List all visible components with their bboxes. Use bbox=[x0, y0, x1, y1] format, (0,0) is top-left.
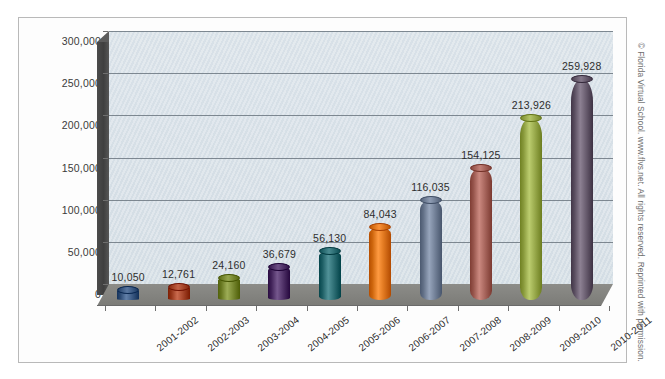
bar bbox=[268, 267, 290, 300]
bar-top-cap bbox=[168, 283, 190, 291]
y-axis-tick-label: 150,000 bbox=[62, 162, 101, 174]
bar-value-label: 56,130 bbox=[313, 232, 346, 244]
bar-top-cap bbox=[268, 263, 290, 271]
x-axis-line bbox=[97, 305, 601, 306]
bar bbox=[420, 200, 442, 300]
y-axis-tick bbox=[103, 200, 108, 201]
x-axis-tick bbox=[206, 306, 207, 311]
y-axis-tick-label: 100,000 bbox=[62, 204, 101, 216]
figure-frame: 050,000100,000150,000200,000250,000300,0… bbox=[18, 17, 627, 363]
bar-top-cap bbox=[571, 75, 593, 83]
x-axis-category-label: 2008-2009 bbox=[507, 314, 553, 353]
bar bbox=[571, 79, 593, 300]
bar-chart: 050,000100,000150,000200,000250,000300,0… bbox=[19, 18, 628, 364]
bar-value-label: 154,125 bbox=[461, 149, 500, 161]
x-axis-category-label: 2007-2008 bbox=[457, 314, 503, 353]
y-axis-tick-label: 200,000 bbox=[62, 119, 101, 131]
gridline bbox=[109, 31, 613, 32]
bar-top-cap bbox=[319, 247, 341, 255]
bar-value-label: 24,160 bbox=[212, 259, 245, 271]
y-axis-tick-label: 300,000 bbox=[62, 35, 101, 47]
bar bbox=[369, 227, 391, 300]
y-axis-tick bbox=[103, 31, 108, 32]
y-axis-tick bbox=[103, 284, 108, 285]
bar-top-cap bbox=[218, 274, 240, 282]
x-axis-tick bbox=[155, 306, 156, 311]
bar-value-label: 10,050 bbox=[111, 271, 144, 283]
bar-value-label: 84,043 bbox=[363, 208, 396, 220]
x-axis-tick bbox=[357, 306, 358, 311]
x-axis-category-label: 2006-2007 bbox=[407, 314, 453, 353]
x-axis-tick bbox=[256, 306, 257, 311]
x-axis-category-label: 2002-2003 bbox=[205, 314, 251, 353]
y-axis-tick bbox=[103, 115, 108, 116]
bar-value-label: 259,928 bbox=[562, 60, 601, 72]
x-axis-tick bbox=[407, 306, 408, 311]
x-axis-tick bbox=[307, 306, 308, 311]
bar-top-cap bbox=[369, 223, 391, 231]
copyright-text: © Florida Virtual School. www.flvs.net. … bbox=[636, 43, 646, 362]
y-axis-tick bbox=[103, 158, 108, 159]
x-axis-tick bbox=[559, 306, 560, 311]
x-axis-category-label: 2005-2006 bbox=[356, 314, 402, 353]
bar-top-cap bbox=[520, 114, 542, 122]
y-axis-tick-label: 50,000 bbox=[68, 246, 101, 258]
y-axis-tick bbox=[103, 73, 108, 74]
y-axis-tick bbox=[103, 242, 108, 243]
bar-value-label: 116,035 bbox=[411, 181, 450, 193]
x-axis-tick bbox=[609, 306, 610, 311]
bar bbox=[520, 118, 542, 300]
x-axis-tick bbox=[458, 306, 459, 311]
gridline bbox=[109, 73, 613, 74]
bar-value-label: 36,679 bbox=[263, 248, 296, 260]
bar-value-label: 12,761 bbox=[162, 268, 195, 280]
bar bbox=[168, 287, 190, 300]
bar-value-label: 213,926 bbox=[512, 99, 551, 111]
bar-top-cap bbox=[117, 286, 139, 294]
bar bbox=[218, 278, 240, 300]
y-axis-tick-label: 250,000 bbox=[62, 77, 101, 89]
x-axis-tick bbox=[508, 306, 509, 311]
x-axis-category-label: 2001-2002 bbox=[155, 314, 201, 353]
x-axis-category-label: 2004-2005 bbox=[306, 314, 352, 353]
bar-top-cap bbox=[470, 164, 492, 172]
bar bbox=[319, 251, 341, 300]
bar-top-cap bbox=[420, 196, 442, 204]
bar bbox=[117, 290, 139, 300]
bar bbox=[470, 168, 492, 300]
x-axis-category-label: 2009-2010 bbox=[558, 314, 604, 353]
x-axis-tick bbox=[105, 306, 106, 311]
x-axis-category-label: 2003-2004 bbox=[255, 314, 301, 353]
copyright-notice: © Florida Virtual School. www.flvs.net. … bbox=[630, 18, 646, 362]
y-axis-labels: 050,000100,000150,000200,000250,000300,0… bbox=[27, 18, 101, 318]
y-axis-side-wall bbox=[97, 42, 109, 295]
